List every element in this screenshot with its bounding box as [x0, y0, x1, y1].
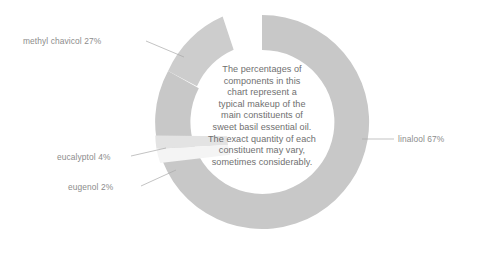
slice-label-eugenol: eugenol 2% [68, 182, 113, 192]
slice-label-linalool: linalool 67% [398, 134, 444, 144]
leader-line-methyl-chavicol [146, 41, 184, 57]
slice-label-methyl-chavicol: methyl chavicol 27% [23, 36, 101, 46]
center-note: The percentages of components in this ch… [186, 64, 338, 168]
slice-label-eucalyptol: eucalyptol 4% [57, 152, 110, 162]
leader-line-eugenol [141, 170, 176, 186]
donut-chart: The percentages of components in this ch… [0, 0, 488, 253]
